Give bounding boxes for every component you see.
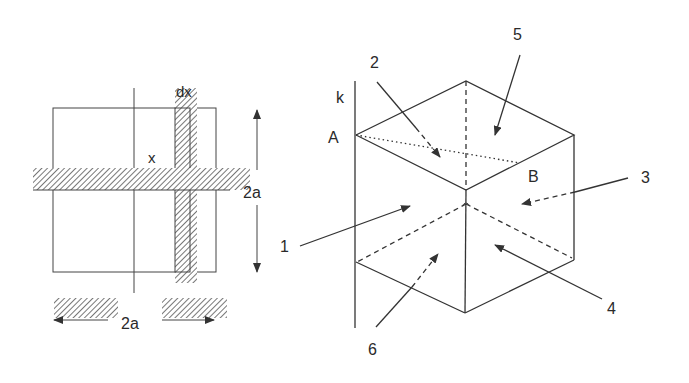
arrow-face-6 bbox=[376, 287, 412, 327]
cube-front-vertical-edge bbox=[465, 190, 466, 313]
cube-figure: k A B 1 2 3 4 5 6 bbox=[280, 26, 650, 358]
bottom-hatch-right bbox=[162, 298, 227, 318]
label-face-2: 2 bbox=[370, 54, 379, 71]
arrow-face-2-dashed bbox=[416, 128, 440, 157]
label-2a-vertical: 2a bbox=[243, 184, 261, 201]
cube-top-face bbox=[356, 81, 574, 190]
label-face-1: 1 bbox=[280, 238, 289, 255]
diagram-canvas: dx x 2a 2a k A B 1 2 bbox=[0, 0, 689, 383]
label-face-3: 3 bbox=[641, 169, 650, 186]
plate-figure: dx x 2a 2a bbox=[33, 83, 261, 332]
label-dx: dx bbox=[176, 83, 192, 100]
cube-bottom-left-edge bbox=[356, 262, 465, 313]
hidden-edge-left bbox=[357, 204, 466, 262]
arrow-face-6-dashed bbox=[412, 254, 438, 287]
label-face-5: 5 bbox=[513, 26, 522, 43]
arrow-face-3-dashed bbox=[522, 192, 575, 204]
bottom-hatch-left bbox=[54, 298, 118, 318]
label-face-4: 4 bbox=[607, 300, 616, 317]
horizontal-strip bbox=[33, 168, 250, 190]
label-x: x bbox=[148, 149, 156, 166]
diagonal-ab bbox=[356, 135, 520, 163]
label-k: k bbox=[336, 89, 345, 106]
label-a: A bbox=[328, 129, 339, 146]
label-2a-horizontal: 2a bbox=[121, 315, 139, 332]
label-face-6: 6 bbox=[368, 341, 377, 358]
arrow-face-3 bbox=[575, 178, 628, 192]
label-b: B bbox=[528, 168, 539, 185]
arrow-face-5 bbox=[495, 55, 520, 135]
hidden-edge-right bbox=[466, 204, 572, 258]
cube-bottom-right-edge bbox=[465, 260, 574, 313]
